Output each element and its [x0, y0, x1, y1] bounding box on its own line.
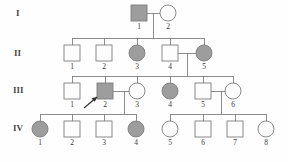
- female-circle-iii-4-affected[interactable]: [162, 83, 178, 99]
- individual-number-ii-3: 3: [135, 62, 139, 71]
- male-square-ii-4-unaffected[interactable]: [162, 45, 178, 61]
- female-circle-i-2-unaffected[interactable]: [160, 5, 176, 21]
- male-square-iii-1-unaffected[interactable]: [64, 83, 80, 99]
- individual-number-iv-1: 1: [38, 138, 42, 147]
- male-square-iv-3-unaffected[interactable]: [96, 121, 112, 137]
- individual-number-iii-1: 1: [70, 100, 74, 109]
- individual-number-i-2: 2: [166, 22, 170, 31]
- chart-background: [0, 0, 288, 162]
- female-circle-iii-3-unaffected[interactable]: [129, 83, 145, 99]
- individual-number-iv-7: 7: [233, 138, 237, 147]
- individual-number-iii-6: 6: [231, 100, 235, 109]
- individual-number-iv-8: 8: [264, 138, 268, 147]
- male-square-ii-2-unaffected[interactable]: [96, 45, 112, 61]
- individual-number-iv-2: 2: [70, 138, 74, 147]
- pedigree-canvas: 121234512345612345678 IIIIIIIV: [0, 0, 288, 162]
- individual-number-iv-4: 4: [134, 138, 138, 147]
- individual-number-iv-6: 6: [201, 138, 205, 147]
- female-circle-iv-1-affected[interactable]: [32, 121, 48, 137]
- individual-number-iii-2: 2: [103, 100, 107, 109]
- female-circle-iii-6-unaffected[interactable]: [225, 83, 241, 99]
- female-circle-iv-5-unaffected[interactable]: [162, 121, 178, 137]
- individual-number-iii-4: 4: [168, 100, 172, 109]
- female-circle-ii-5-affected[interactable]: [196, 45, 212, 61]
- male-square-iii-5-unaffected[interactable]: [195, 83, 211, 99]
- individual-number-iv-3: 3: [102, 138, 106, 147]
- generation-label-ii: II: [14, 48, 22, 58]
- individual-number-ii-4: 4: [168, 62, 172, 71]
- individual-number-ii-2: 2: [102, 62, 106, 71]
- individual-number-ii-1: 1: [70, 62, 74, 71]
- generation-label-i: I: [16, 8, 20, 18]
- male-square-ii-1-unaffected[interactable]: [64, 45, 80, 61]
- generation-label-iv: IV: [13, 123, 24, 133]
- individual-number-i-1: 1: [137, 22, 141, 31]
- female-circle-iv-8-unaffected[interactable]: [258, 121, 274, 137]
- female-circle-iv-4-affected[interactable]: [128, 121, 144, 137]
- female-circle-ii-3-affected[interactable]: [129, 45, 145, 61]
- male-square-iv-2-unaffected[interactable]: [64, 121, 80, 137]
- male-square-i-1-affected[interactable]: [131, 5, 147, 21]
- pedigree-chart: 121234512345612345678 IIIIIIIV: [0, 0, 288, 162]
- individual-number-iii-3: 3: [135, 100, 139, 109]
- individual-number-iv-5: 5: [168, 138, 172, 147]
- generation-label-iii: III: [13, 85, 24, 95]
- male-square-iv-6-unaffected[interactable]: [195, 121, 211, 137]
- male-square-iv-7-unaffected[interactable]: [227, 121, 243, 137]
- male-square-iii-2-affected[interactable]: [97, 83, 113, 99]
- individual-number-ii-5: 5: [202, 62, 206, 71]
- individual-number-iii-5: 5: [201, 100, 205, 109]
